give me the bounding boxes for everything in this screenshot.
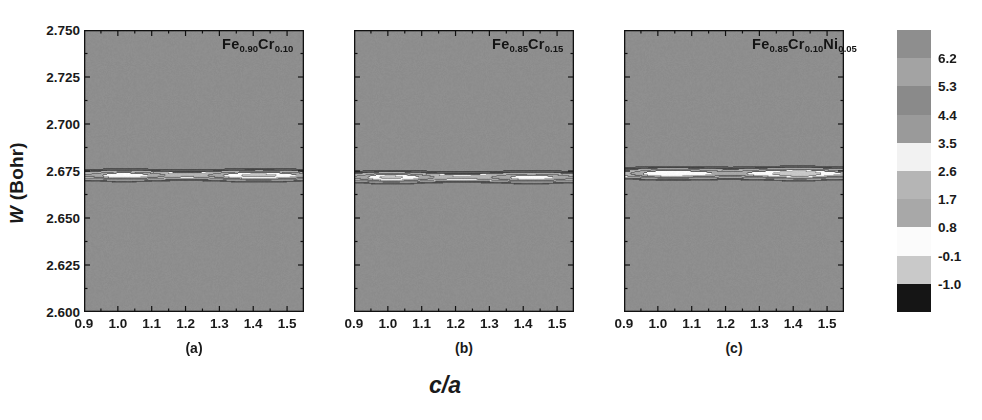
x-tick-label: 1.5 (818, 316, 837, 331)
x-tick-label: 0.9 (75, 316, 94, 331)
x-tick-label: 1.3 (480, 316, 499, 331)
panel-a-formula: Fe0.90Cr0.10 (222, 36, 293, 54)
panel-a (84, 30, 304, 312)
colorbar-swatch (897, 256, 931, 284)
colorbar-swatch (897, 58, 931, 86)
x-tick-label: 1.2 (716, 316, 735, 331)
colorbar-tick-label: 3.5 (938, 135, 957, 150)
x-tick-label: 1.4 (244, 316, 263, 331)
contour-figure: W (Bohr) 2.6002.6252.6502.6752.7002.7252… (0, 0, 982, 420)
y-tick-label: 2.725 (46, 70, 80, 85)
y-axis-ticks: 2.6002.6252.6502.6752.7002.7252.750 (10, 30, 80, 312)
x-tick-label: 1.1 (142, 316, 161, 331)
colorbar-tick-label: 0.8 (938, 220, 957, 235)
panel-b (354, 30, 574, 312)
colorbar (897, 30, 931, 312)
panel-b-formula: Fe0.85Cr0.15 (492, 36, 563, 54)
colorbar-tick-label: 1.7 (938, 192, 957, 207)
colorbar-swatch (897, 227, 931, 255)
formula-subscript: 0.85 (770, 43, 789, 54)
panel-label-a: (a) (84, 340, 304, 356)
x-tick-label: 1.3 (750, 316, 769, 331)
x-tick-label: 1.5 (548, 316, 567, 331)
colorbar-tick-label: -1.0 (938, 276, 961, 291)
formula-subscript: 0.10 (275, 43, 294, 54)
colorbar-tick-label: 5.3 (938, 79, 957, 94)
formula-subscript: 0.15 (545, 43, 564, 54)
formula-element: Fe (222, 36, 240, 52)
panel-c-axes (624, 30, 844, 312)
colorbar-tick-label: 4.4 (938, 107, 957, 122)
formula-element: Ni (823, 36, 838, 52)
x-tick-label: 1.5 (278, 316, 297, 331)
x-tick-label: 1.4 (514, 316, 533, 331)
panel-b-axes (354, 30, 574, 312)
x-tick-label: 1.4 (784, 316, 803, 331)
x-tick-label: 0.9 (345, 316, 364, 331)
formula-element: Cr (788, 36, 805, 52)
y-tick-label: 2.675 (46, 164, 80, 179)
colorbar-labels: 6.25.34.43.52.61.70.8-0.1-1.0 (938, 30, 982, 312)
formula-element: Fe (752, 36, 770, 52)
x-tick-label: 1.0 (378, 316, 397, 331)
x-tick-label: 1.0 (648, 316, 667, 331)
colorbar-swatch (897, 143, 931, 171)
x-tick-label: 1.3 (210, 316, 229, 331)
panel-label-c: (c) (624, 340, 844, 356)
formula-subscript: 0.85 (510, 43, 529, 54)
formula-subscript: 0.05 (838, 43, 857, 54)
formula-element: Cr (528, 36, 545, 52)
panel-c-formula: Fe0.85Cr0.10Ni0.05 (752, 36, 857, 54)
x-axis-ticks-b: 0.91.01.11.21.31.41.5 (354, 316, 574, 334)
y-tick-label: 2.650 (46, 211, 80, 226)
x-tick-label: 1.2 (176, 316, 195, 331)
x-tick-label: 1.0 (108, 316, 127, 331)
colorbar-swatch (897, 171, 931, 199)
x-tick-label: 1.1 (682, 316, 701, 331)
formula-subscript: 0.90 (240, 43, 259, 54)
panel-a-axes (84, 30, 304, 312)
colorbar-swatch (897, 199, 931, 227)
colorbar-swatch (897, 86, 931, 114)
colorbar-swatch (897, 30, 931, 58)
y-tick-label: 2.625 (46, 258, 80, 273)
colorbar-swatch (897, 115, 931, 143)
formula-subscript: 0.10 (805, 43, 824, 54)
x-axis-ticks-a: 0.91.01.11.21.31.41.5 (84, 316, 304, 334)
formula-element: Cr (258, 36, 275, 52)
panel-c (624, 30, 844, 312)
colorbar-tick-label: 2.6 (938, 164, 957, 179)
colorbar-tick-label: -0.1 (938, 248, 961, 263)
x-tick-label: 1.2 (446, 316, 465, 331)
y-tick-label: 2.700 (46, 117, 80, 132)
y-tick-label: 2.750 (46, 23, 80, 38)
x-axis-ticks-c: 0.91.01.11.21.31.41.5 (624, 316, 844, 334)
colorbar-swatch (897, 284, 931, 312)
panel-label-b: (b) (354, 340, 574, 356)
x-axis-label: c/a (0, 372, 890, 399)
x-tick-label: 0.9 (615, 316, 634, 331)
colorbar-tick-label: 6.2 (938, 51, 957, 66)
x-tick-label: 1.1 (412, 316, 431, 331)
formula-element: Fe (492, 36, 510, 52)
